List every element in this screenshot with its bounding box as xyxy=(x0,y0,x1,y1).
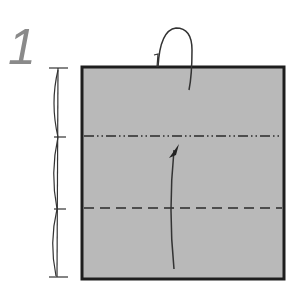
paper-square xyxy=(82,67,284,279)
thirds-measure-icon xyxy=(49,68,68,277)
origami-diagram xyxy=(0,0,307,299)
